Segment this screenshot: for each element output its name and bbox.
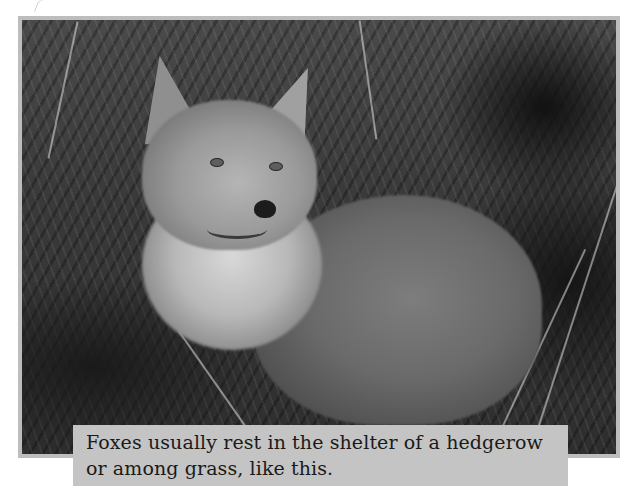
- caption-box: Foxes usually rest in the shelter of a h…: [73, 425, 568, 486]
- caption-text: Foxes usually rest in the shelter of a h…: [86, 431, 543, 479]
- fox-eye-left: [210, 158, 224, 167]
- fox-photo: [22, 20, 616, 454]
- grass-stalk: [359, 20, 378, 139]
- photo-frame: [18, 16, 620, 458]
- grass-stalk: [536, 147, 616, 433]
- fox-nose: [254, 200, 276, 218]
- fox-mouth: [207, 220, 267, 239]
- grass-stalk: [47, 21, 78, 158]
- page-mark: [34, 0, 49, 15]
- fox-eye-right: [269, 162, 283, 171]
